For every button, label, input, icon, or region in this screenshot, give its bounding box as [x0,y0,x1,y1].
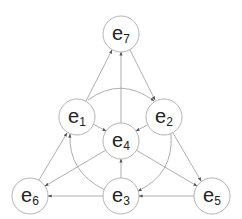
node-e4: e4 [103,123,139,159]
edge-e2-e3 [138,134,171,191]
edge-e2-e5 [173,133,201,181]
graph-diagram: e7 e1 e2 e4 e6 e3 e5 [0,0,242,219]
node-e6: e6 [12,178,48,214]
node-e1: e1 [59,99,95,135]
node-e3: e3 [103,178,139,214]
edge-e3-e1 [70,134,105,190]
node-e2: e2 [146,99,182,135]
edge-e1-e4 [93,124,106,131]
edge-e4-e6 [45,150,106,186]
edge-e2-e4 [136,124,149,131]
node-e7: e7 [103,16,139,52]
edge-e7-e2 [130,50,155,100]
node-e5: e5 [194,178,230,214]
edge-e4-e5 [136,150,197,186]
edge-e6-e1 [39,133,67,180]
